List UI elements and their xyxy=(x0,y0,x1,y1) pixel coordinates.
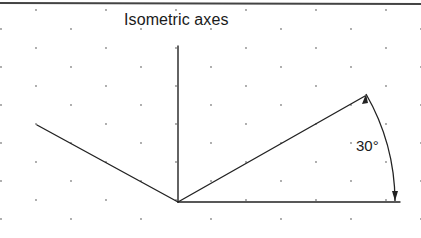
isometric-dot-grid xyxy=(0,9,421,220)
left-isometric-axis xyxy=(37,125,178,202)
isometric-axes-diagram: Isometric axes 30° xyxy=(0,0,421,238)
diagram-title: Isometric axes xyxy=(124,11,229,29)
right-isometric-axis xyxy=(178,96,365,202)
top-border-line xyxy=(0,3,421,4)
angle-label: 30° xyxy=(356,137,379,154)
arrowhead-bottom-icon xyxy=(392,191,398,201)
diagram-drawing xyxy=(0,0,421,238)
